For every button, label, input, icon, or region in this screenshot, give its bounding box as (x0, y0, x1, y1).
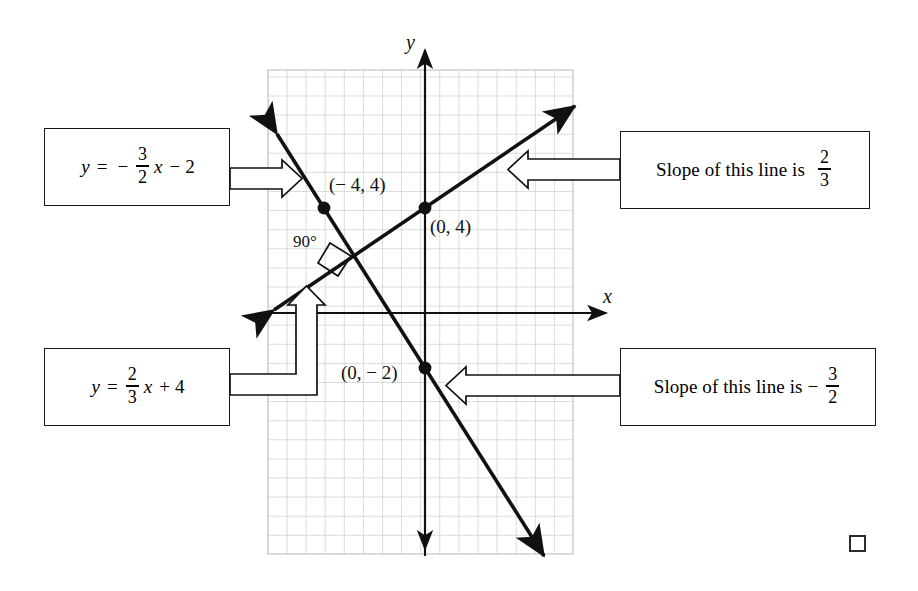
slope-negative-fraction: 3 2 (826, 365, 839, 406)
fraction-numerator: 3 (136, 145, 149, 163)
point-label-0-minus2: (0, − 2) (341, 362, 398, 384)
fraction-denominator: 3 (818, 171, 831, 189)
callout-equation-steep: y = − 3 2 x − 2 (44, 128, 230, 206)
equation-steep-lhs: y (79, 156, 91, 178)
equation-steep-operator: − (165, 156, 186, 178)
equation-steep-constant: 2 (185, 156, 195, 178)
y-axis-label: y (406, 31, 415, 54)
equation-shallow-variable: x (142, 376, 154, 398)
callout-slope-negative: Slope of this line is − 3 2 (620, 348, 876, 426)
point-0-4 (419, 202, 432, 215)
right-angle-label: 90° (293, 232, 317, 252)
callout-slope-positive: Slope of this line is 2 3 (620, 131, 870, 209)
equation-steep-variable: x (152, 156, 164, 178)
fraction-denominator: 2 (136, 168, 149, 186)
graph-canvas (0, 0, 918, 591)
fraction-numerator: 2 (818, 148, 831, 166)
slope-positive-text: Slope of this line is (656, 159, 805, 181)
equation-steep-equals: = (92, 156, 113, 178)
slope-negative-sign: − (803, 376, 824, 398)
fraction-denominator: 2 (826, 388, 839, 406)
slope-positive-fraction: 2 3 (818, 148, 831, 189)
x-axis-label: x (603, 285, 612, 308)
equation-shallow-equals: = (102, 376, 123, 398)
equation-steep-fraction: 3 2 (136, 145, 149, 186)
fraction-denominator: 3 (126, 388, 139, 406)
slope-negative-content: Slope of this line is − 3 2 (654, 366, 843, 407)
callout-equation-shallow: y = 2 3 x + 4 (44, 348, 230, 426)
equation-shallow-lhs: y (90, 376, 102, 398)
equation-shallow-operator: + (154, 376, 175, 398)
point-label-minus4-4: (− 4, 4) (329, 174, 386, 196)
end-of-proof-marker (849, 535, 866, 552)
figure-root: (− 4, 4) (0, 4) (0, − 2) 90° y x y = − 3… (0, 0, 918, 591)
fraction-numerator: 2 (126, 365, 139, 383)
equation-steep-text: y = − 3 2 x − 2 (79, 146, 195, 187)
slope-positive-content: Slope of this line is 2 3 (656, 149, 834, 190)
equation-shallow-text: y = 2 3 x + 4 (90, 366, 185, 407)
point-label-0-4: (0, 4) (430, 216, 471, 238)
point-minus4-4 (318, 202, 331, 215)
fraction-numerator: 3 (826, 365, 839, 383)
point-0-minus2 (419, 362, 432, 375)
slope-negative-text: Slope of this line is (654, 376, 803, 398)
equation-shallow-constant: 4 (175, 376, 185, 398)
equation-steep-sign: − (112, 156, 133, 178)
equation-shallow-fraction: 2 3 (126, 365, 139, 406)
